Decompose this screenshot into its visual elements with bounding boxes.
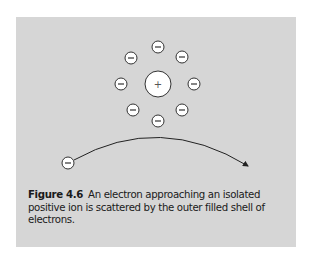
plus-sign-icon: + <box>154 79 162 90</box>
figure-label: Figure 4.6 <box>28 189 83 200</box>
incoming-electron <box>62 157 74 169</box>
positive-ion-nucleus: + <box>145 71 171 97</box>
electron-trajectory-arrow <box>74 137 248 166</box>
figure-caption: Figure 4.6An electron approaching an iso… <box>28 189 290 227</box>
